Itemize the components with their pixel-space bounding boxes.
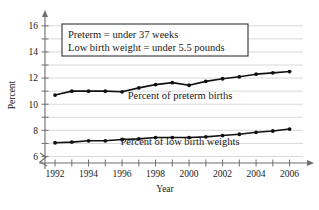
data-point: [53, 141, 57, 145]
x-tick-label: 2006: [280, 169, 299, 179]
data-point: [187, 83, 191, 87]
data-point: [70, 140, 74, 144]
x-tick-labels: 19921994199619982000200220042006: [46, 169, 300, 179]
chart-figure: 6810121416 19921994199619982000200220042…: [0, 0, 319, 210]
y-tick-label: 12: [29, 73, 39, 83]
x-tick-label: 1996: [113, 169, 132, 179]
data-point: [237, 75, 241, 79]
data-point: [254, 72, 258, 76]
data-point: [103, 89, 107, 93]
data-point: [221, 77, 225, 81]
y-tick-label: 14: [29, 47, 39, 57]
y-tick-label: 8: [33, 126, 38, 136]
data-point: [87, 139, 91, 143]
x-tick-label: 1998: [146, 169, 165, 179]
y-axis-title: Percent: [7, 80, 17, 109]
series-label-preterm: Percent of preterm births: [128, 90, 233, 101]
series-label-low-birth-weight: Percent of low birth weights: [121, 136, 240, 147]
y-tick-label: 16: [29, 21, 39, 31]
data-point: [288, 127, 292, 131]
data-point: [204, 79, 208, 83]
data-point: [254, 130, 258, 134]
data-point: [154, 83, 158, 87]
data-point: [87, 89, 91, 93]
series-labels: Percent of preterm births Percent of low…: [121, 90, 240, 147]
x-axis: 19921994199619982000200220042006: [39, 160, 314, 180]
data-point: [288, 70, 292, 74]
x-tick-label: 1994: [79, 169, 98, 179]
data-series-group: [53, 70, 291, 145]
x-axis-title: Year: [156, 184, 174, 194]
data-point: [271, 71, 275, 75]
x-tick-label: 1992: [46, 169, 65, 179]
definition-box: Preterm = under 37 weeks Low birth weigh…: [62, 24, 248, 56]
axis-break-icon: [40, 153, 47, 166]
x-tick-label: 2002: [213, 169, 232, 179]
x-tick-label: 2000: [180, 169, 199, 179]
y-axis-arrowhead: [42, 10, 48, 17]
data-point: [103, 139, 107, 143]
y-tick-labels: 6810121416: [29, 21, 39, 162]
y-axis: 6810121416: [29, 10, 49, 169]
data-point: [120, 90, 124, 94]
data-point: [53, 93, 57, 97]
y-tick-label: 6: [33, 152, 38, 162]
x-axis-arrowhead: [307, 160, 314, 166]
x-tick-label: 2004: [247, 169, 266, 179]
data-point: [271, 129, 275, 133]
data-point: [170, 81, 174, 85]
definition-line-2: Low birth weight = under 5.5 pounds: [68, 42, 225, 53]
data-point: [70, 89, 74, 93]
y-tick-label: 10: [29, 100, 39, 110]
definition-line-1: Preterm = under 37 weeks: [68, 29, 178, 40]
line-chart: 6810121416 19921994199619982000200220042…: [0, 0, 319, 210]
